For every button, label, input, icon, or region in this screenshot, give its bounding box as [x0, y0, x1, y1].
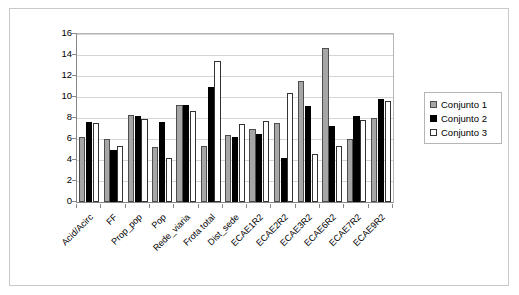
bar-group — [271, 34, 295, 202]
y-axis-tick-label: 12 — [46, 70, 72, 80]
bar — [322, 48, 328, 202]
bar-group — [77, 34, 101, 202]
bar — [249, 129, 255, 203]
bar — [287, 93, 293, 202]
x-axis-tick-mark — [246, 204, 247, 208]
bar — [371, 118, 377, 202]
legend-item-label: Conjunto 3 — [441, 127, 487, 138]
bar-group — [126, 34, 150, 202]
y-axis-tick-mark — [72, 96, 76, 97]
y-axis-tick-label: 6 — [46, 133, 72, 143]
bar — [239, 124, 245, 202]
bar — [128, 115, 134, 202]
x-axis-tick-mark — [149, 204, 150, 208]
y-axis-tick-mark — [72, 180, 76, 181]
bar — [183, 105, 189, 202]
bar — [110, 150, 116, 203]
x-axis-tick-mark — [295, 204, 296, 208]
y-axis-tick-label: 8 — [46, 112, 72, 122]
bar-group — [369, 34, 393, 202]
bar — [152, 147, 158, 202]
bar — [135, 116, 141, 202]
y-axis-tick-mark — [72, 117, 76, 118]
bar — [281, 158, 287, 202]
plot-area — [76, 33, 394, 203]
bar — [353, 116, 359, 202]
bar-group — [223, 34, 247, 202]
bar — [104, 139, 110, 202]
bar — [176, 105, 182, 202]
y-axis-tick-label: 4 — [46, 154, 72, 164]
x-axis-tick-mark — [173, 204, 174, 208]
legend-swatch-icon — [430, 115, 437, 122]
legend-item-label: Conjunto 2 — [441, 113, 487, 124]
bar-group — [247, 34, 271, 202]
bar — [385, 101, 391, 202]
x-axis-tick-mark — [198, 204, 199, 208]
bar — [214, 61, 220, 202]
x-axis-tick-mark — [319, 204, 320, 208]
chart-legend: Conjunto 1Conjunto 2Conjunto 3 — [424, 92, 502, 144]
y-axis-tick-mark — [72, 159, 76, 160]
bar — [86, 122, 92, 202]
y-axis-tick-mark — [72, 201, 76, 202]
legend-item[interactable]: Conjunto 2 — [430, 111, 497, 125]
chart-container: 0246810121416 Acid/AcircFFProp_popPopRed… — [9, 8, 509, 286]
bar-group — [174, 34, 198, 202]
y-axis-tick-mark — [72, 54, 76, 55]
bar-group — [199, 34, 223, 202]
bar — [329, 126, 335, 202]
bar — [79, 137, 85, 202]
y-axis-tick-label: 2 — [46, 175, 72, 185]
bar — [263, 121, 269, 202]
bar — [166, 158, 172, 202]
bar — [347, 139, 353, 202]
y-axis-tick-label: 14 — [46, 49, 72, 59]
x-axis-tick-mark — [343, 204, 344, 208]
bar — [201, 146, 207, 202]
bar — [274, 123, 280, 202]
bar — [225, 135, 231, 202]
x-axis-tick-mark — [270, 204, 271, 208]
legend-item[interactable]: Conjunto 3 — [430, 125, 497, 139]
bar-group — [101, 34, 125, 202]
bar — [208, 87, 214, 203]
bar — [159, 122, 165, 202]
bar — [360, 120, 366, 202]
bar-group — [320, 34, 344, 202]
bar — [298, 81, 304, 202]
bar — [141, 119, 147, 202]
y-axis-tick-mark — [72, 138, 76, 139]
y-axis-tick-mark — [72, 75, 76, 76]
y-axis-tick-label: 0 — [46, 196, 72, 206]
bar — [378, 99, 384, 202]
y-axis-tick-label: 10 — [46, 91, 72, 101]
x-axis-tick-mark — [222, 204, 223, 208]
legend-item[interactable]: Conjunto 1 — [430, 97, 497, 111]
y-axis-tick-mark — [72, 33, 76, 34]
x-axis-tick-mark — [76, 204, 77, 208]
x-axis-tick-mark — [368, 204, 369, 208]
bar — [93, 123, 99, 202]
bar — [256, 134, 262, 202]
bar — [232, 137, 238, 202]
legend-item-label: Conjunto 1 — [441, 99, 487, 110]
bar-group — [296, 34, 320, 202]
y-axis-tick-label: 16 — [46, 28, 72, 38]
bar-group — [150, 34, 174, 202]
bar — [305, 106, 311, 202]
y-axis: 0246810121416 — [44, 33, 72, 203]
legend-swatch-icon — [430, 101, 437, 108]
bar — [336, 146, 342, 202]
x-axis-tick-mark — [392, 204, 393, 208]
x-axis-tick-mark — [100, 204, 101, 208]
bar-group — [344, 34, 368, 202]
bar — [190, 111, 196, 202]
x-axis-tick-mark — [125, 204, 126, 208]
bar — [117, 146, 123, 202]
x-axis: Acid/AcircFFProp_popPopRede_viariaFrota … — [76, 204, 406, 284]
bar — [312, 154, 318, 202]
legend-swatch-icon — [430, 129, 437, 136]
